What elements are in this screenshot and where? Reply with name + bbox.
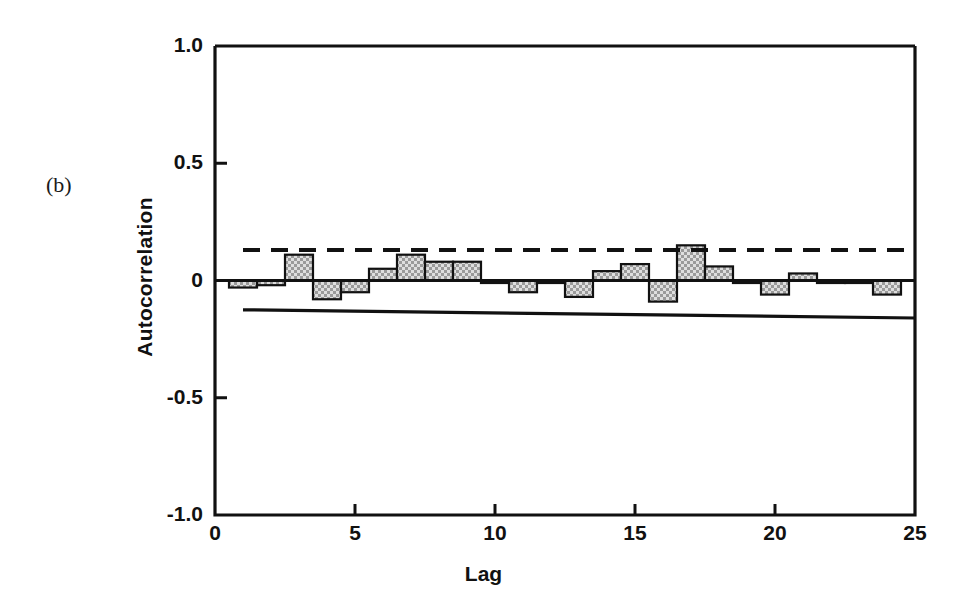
x-tick-label: 0	[195, 521, 235, 545]
y-tick-label: 0	[133, 268, 203, 292]
y-tick-label: -0.5	[133, 385, 203, 409]
bar	[453, 262, 481, 281]
bar	[621, 264, 649, 280]
autocorrelation-figure: (b) Autocorrelation Lag -1.0-0.500.51.0 …	[0, 0, 967, 608]
x-tick-label: 5	[335, 521, 375, 545]
y-tick-label: 1.0	[133, 33, 203, 57]
bar	[341, 281, 369, 293]
panel-label: (b)	[46, 172, 72, 198]
y-tick-label: -1.0	[133, 502, 203, 526]
bar	[509, 281, 537, 293]
x-axis-title: Lag	[0, 562, 967, 586]
x-tick-label: 20	[755, 521, 795, 545]
bar	[425, 262, 453, 281]
bar	[313, 281, 341, 300]
x-tick-label: 10	[475, 521, 515, 545]
lower-confidence-limit	[243, 310, 915, 318]
y-tick-label: 0.5	[133, 150, 203, 174]
bar	[285, 255, 313, 281]
bar	[565, 281, 593, 297]
x-tick-label: 25	[895, 521, 935, 545]
bar	[649, 281, 677, 302]
bar	[397, 255, 425, 281]
bar	[873, 281, 901, 295]
bar	[761, 281, 789, 295]
bars-series	[229, 245, 901, 301]
bar	[369, 269, 397, 281]
bar	[705, 266, 733, 280]
x-tick-label: 15	[615, 521, 655, 545]
